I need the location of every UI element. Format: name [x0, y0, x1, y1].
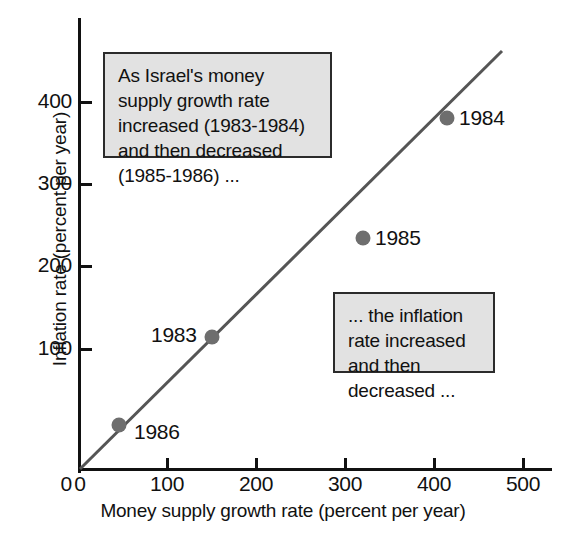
x-tick-label-100: 100 [132, 472, 202, 496]
data-point-label-1986: 1986 [134, 420, 180, 444]
y-axis-title: Inflation rate (percent per year) [49, 29, 71, 449]
x-tick-label-0: 0 [45, 472, 115, 496]
x-tick-500 [522, 458, 525, 469]
data-point-1986 [112, 418, 127, 433]
data-point-label-1985: 1985 [375, 226, 421, 250]
data-point-1983 [205, 330, 220, 345]
annotation-money-supply: As Israel's money supply growth rate inc… [103, 52, 332, 158]
x-axis-title: Money supply growth rate (percent per ye… [0, 500, 566, 522]
y-axis-line [78, 18, 81, 473]
y-tick-400 [81, 101, 92, 104]
x-tick-label-500: 500 [488, 472, 558, 496]
x-tick-100 [166, 458, 169, 469]
annotation-inflation: ... the inflation rate increased and the… [333, 292, 495, 373]
x-tick-label-300: 300 [310, 472, 380, 496]
x-tick-label-400: 400 [399, 472, 469, 496]
y-tick-200 [81, 265, 92, 268]
x-axis-line [78, 468, 552, 471]
data-point-label-1984: 1984 [459, 106, 505, 130]
x-tick-label-200: 200 [221, 472, 291, 496]
chart-figure: 400 300 200 100 0 0 100 200 300 400 500 … [0, 0, 566, 535]
data-point-label-1983: 1983 [151, 323, 197, 347]
x-tick-300 [344, 458, 347, 469]
x-tick-400 [433, 458, 436, 469]
x-tick-200 [255, 458, 258, 469]
data-point-1984 [440, 111, 455, 126]
y-tick-300 [81, 183, 92, 186]
y-tick-100 [81, 348, 92, 351]
data-point-1985 [356, 231, 371, 246]
